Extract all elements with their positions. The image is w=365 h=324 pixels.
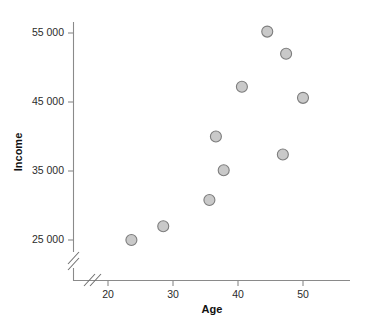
data-point bbox=[158, 221, 169, 232]
data-point bbox=[210, 131, 221, 142]
data-point bbox=[218, 165, 229, 176]
data-point bbox=[277, 149, 288, 160]
x-tick-label-20: 20 bbox=[102, 288, 114, 300]
x-tick-label-50: 50 bbox=[297, 288, 309, 300]
data-point bbox=[204, 194, 215, 205]
scatter-chart: 55 000 45 000 35 000 25 000 20 30 40 50 … bbox=[0, 0, 365, 324]
y-axis-break-icon bbox=[68, 252, 79, 270]
data-point bbox=[262, 26, 273, 37]
y-tick-label-25000: 25 000 bbox=[32, 233, 64, 245]
y-tick-label-35000: 35 000 bbox=[32, 164, 64, 176]
data-points bbox=[126, 26, 309, 245]
y-tick-label-45000: 45 000 bbox=[32, 95, 64, 107]
data-point bbox=[126, 235, 137, 246]
x-axis-title: Age bbox=[202, 303, 223, 315]
data-point bbox=[281, 48, 292, 59]
y-axis-ticks bbox=[68, 33, 74, 240]
x-tick-label-30: 30 bbox=[167, 288, 179, 300]
y-tick-label-55000: 55 000 bbox=[32, 26, 64, 38]
x-tick-label-40: 40 bbox=[232, 288, 244, 300]
plot-area: 55 000 45 000 35 000 25 000 20 30 40 50 … bbox=[0, 0, 365, 324]
y-axis-title: Income bbox=[12, 133, 24, 172]
x-axis-ticks bbox=[108, 281, 303, 287]
data-point bbox=[298, 92, 309, 103]
data-point bbox=[236, 81, 247, 92]
